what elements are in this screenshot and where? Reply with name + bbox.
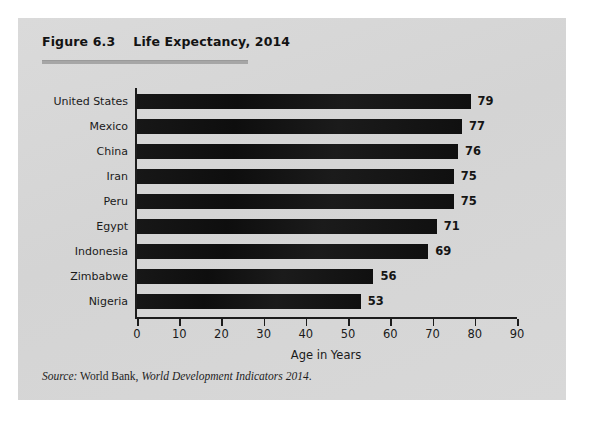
figure-card: Figure 6.3 Life Expectancy, 2014 United …	[18, 18, 566, 400]
bar-chart-plot-area: United States79Mexico77China76Iran75Peru…	[18, 18, 566, 400]
x-axis-tick-mark	[475, 319, 477, 326]
x-axis-tick-mark	[433, 319, 435, 326]
x-axis-tick-mark	[390, 319, 392, 326]
x-axis-tick-label: 0	[133, 327, 140, 341]
bar	[137, 269, 373, 284]
category-label: United States	[18, 95, 128, 108]
x-axis-tick-mark	[264, 319, 266, 326]
category-label: China	[18, 145, 128, 158]
x-axis-tick-label: 30	[256, 327, 271, 341]
x-axis-tick-label: 70	[425, 327, 440, 341]
x-axis-line	[135, 317, 517, 319]
bar-row: Zimbabwe56	[18, 266, 566, 291]
x-axis-tick-mark	[306, 319, 308, 326]
x-axis-tick-mark	[179, 319, 181, 326]
x-axis-tick-label: 50	[341, 327, 356, 341]
x-axis-tick-mark	[137, 319, 139, 326]
bar-row: Mexico77	[18, 116, 566, 141]
bar-value-label: 77	[469, 119, 485, 133]
x-axis-tick-label: 60	[383, 327, 398, 341]
x-axis-tick-mark	[348, 319, 350, 326]
bar-value-label: 69	[435, 244, 451, 258]
bar-value-label: 75	[461, 194, 477, 208]
bar	[137, 219, 437, 234]
bar-row: China76	[18, 141, 566, 166]
bar-row: Egypt71	[18, 216, 566, 241]
bar-row: Nigeria53	[18, 291, 566, 316]
category-label: Egypt	[18, 220, 128, 233]
bar	[137, 244, 428, 259]
category-label: Mexico	[18, 120, 128, 133]
category-label: Peru	[18, 195, 128, 208]
source-label: Source:	[42, 370, 77, 382]
bar	[137, 94, 471, 109]
x-axis-tick-label: 40	[299, 327, 314, 341]
x-axis-tick-mark	[221, 319, 223, 326]
bar-value-label: 75	[461, 169, 477, 183]
bar-value-label: 56	[380, 269, 396, 283]
bar	[137, 119, 462, 134]
category-label: Zimbabwe	[18, 270, 128, 283]
source-organization: World Bank,	[77, 370, 141, 382]
bar-value-label: 76	[465, 144, 481, 158]
source-period: .	[309, 370, 312, 382]
bar	[137, 294, 361, 309]
bar-value-label: 79	[478, 94, 494, 108]
bar	[137, 194, 454, 209]
bar-row: United States79	[18, 91, 566, 116]
x-axis-tick-label: 90	[510, 327, 525, 341]
bar-row: Iran75	[18, 166, 566, 191]
source-publication: World Development Indicators 2014	[141, 370, 308, 382]
bar-row: Indonesia69	[18, 241, 566, 266]
x-axis-tick-label: 10	[172, 327, 187, 341]
bar-row: Peru75	[18, 191, 566, 216]
category-label: Indonesia	[18, 245, 128, 258]
source-note: Source: World Bank, World Development In…	[42, 370, 312, 382]
x-axis-tick-label: 20	[214, 327, 229, 341]
x-axis-tick-mark	[517, 319, 519, 326]
x-axis-title: Age in Years	[135, 348, 517, 362]
category-label: Iran	[18, 170, 128, 183]
x-axis-tick-label: 80	[467, 327, 482, 341]
bar	[137, 169, 454, 184]
category-label: Nigeria	[18, 295, 128, 308]
bar-value-label: 71	[444, 219, 460, 233]
bar-value-label: 53	[368, 294, 384, 308]
bar	[137, 144, 458, 159]
